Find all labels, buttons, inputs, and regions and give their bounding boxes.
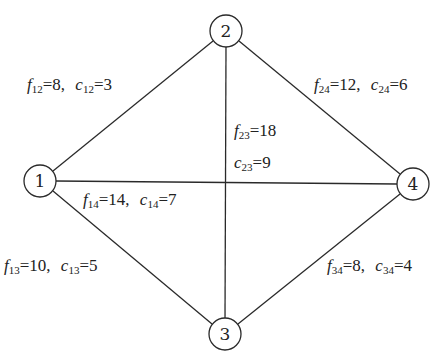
edge-2-4-label: f24=12, c24=6 xyxy=(314,75,407,95)
node-4: 4 xyxy=(397,168,429,200)
node-3: 3 xyxy=(209,318,241,350)
edge-1-2-label: f12=8, c12=3 xyxy=(27,75,112,95)
node-2-label: 2 xyxy=(221,21,232,41)
node-3-label: 3 xyxy=(220,324,231,344)
node-2: 2 xyxy=(210,15,242,47)
edge-1-4 xyxy=(56,181,397,184)
node-1-label: 1 xyxy=(35,171,46,191)
edge-2-3-flow-label: f23=18 xyxy=(234,121,276,141)
network-diagram: 1 2 3 4 f12=8, c12=3 f24=12, c24=6 f23=1… xyxy=(0,0,447,363)
edge-1-3 xyxy=(53,191,212,324)
edge-2-3-cost-label: c23=9 xyxy=(234,153,271,173)
edge-1-3-label: f13=10, c13=5 xyxy=(4,256,97,276)
edge-3-4-label: f34=8, c34=4 xyxy=(327,256,412,276)
edge-1-2 xyxy=(53,41,213,171)
node-4-label: 4 xyxy=(408,174,419,194)
node-1: 1 xyxy=(24,165,56,197)
edge-1-4-label: f14=14, c14=7 xyxy=(83,190,177,210)
